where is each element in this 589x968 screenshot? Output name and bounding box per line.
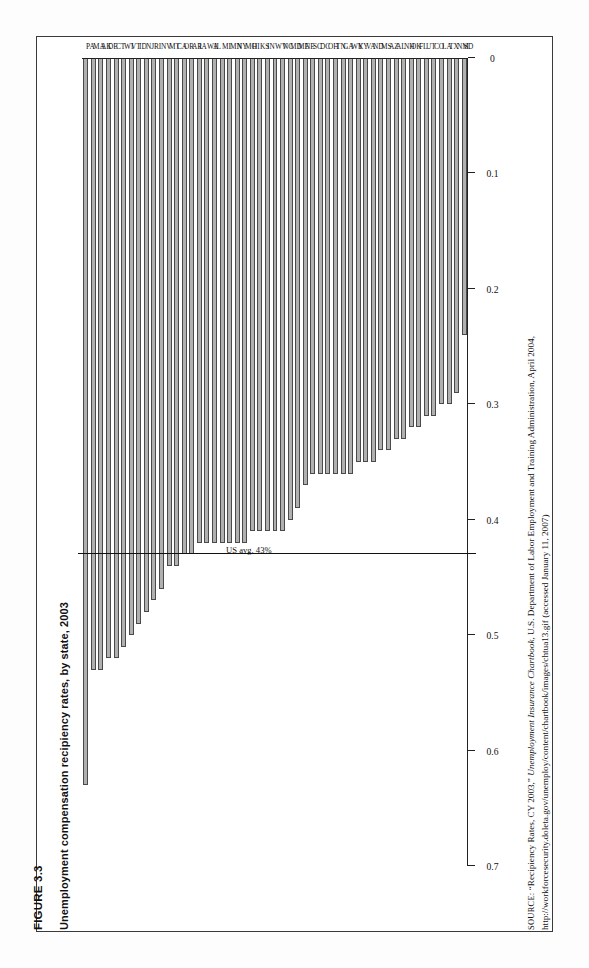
- source-note: SOURCE: “Recipiency Rates, CY 2003,” Une…: [525, 50, 552, 930]
- value-label-0.5: 0.5: [487, 630, 499, 641]
- bar-me: [295, 58, 300, 508]
- bar-row: [310, 58, 315, 866]
- bar-mn: [227, 58, 232, 543]
- bar-az: [386, 58, 391, 450]
- bar-mo: [242, 58, 247, 543]
- bar-chart: 00.10.20.30.40.50.60.7 PAMAAKDECTWIVTIDN…: [76, 50, 506, 918]
- bar-dc: [318, 58, 323, 474]
- bar-row: [114, 58, 119, 866]
- bar-oh: [325, 58, 330, 474]
- bar-ma: [91, 58, 96, 670]
- bar-al: [394, 58, 399, 439]
- bar-row: [447, 58, 452, 866]
- value-tick-0.7: [468, 865, 475, 866]
- bar-ia: [197, 58, 202, 543]
- figure-page: FIGURE 3.3 Unemployment compensation rec…: [0, 0, 589, 968]
- bar-vt: [129, 58, 134, 635]
- bar-row: [265, 58, 270, 866]
- bar-row: [212, 58, 217, 866]
- bar-row: [431, 58, 436, 866]
- bar-row: [204, 58, 209, 866]
- bar-ut: [424, 58, 429, 416]
- bar-row: [91, 58, 96, 866]
- bar-row: [159, 58, 164, 866]
- value-tick-0.4: [468, 519, 475, 520]
- bar-row: [318, 58, 323, 866]
- bar-hi: [250, 58, 255, 531]
- bar-nh: [401, 58, 406, 439]
- bar-row: [303, 58, 308, 866]
- bar-wa: [204, 58, 209, 543]
- bar-row: [151, 58, 156, 866]
- bar-row: [174, 58, 179, 866]
- value-tick-0: [468, 57, 475, 58]
- bar-row: [378, 58, 383, 866]
- figure-number-label: FIGURE 3.3: [32, 865, 44, 930]
- value-tick-0.1: [468, 172, 475, 173]
- bar-row: [136, 58, 141, 866]
- category-axis-line: [82, 58, 468, 59]
- category-label-ia: IA: [199, 42, 207, 51]
- bar-row: [144, 58, 149, 866]
- bar-row: [363, 58, 368, 866]
- bar-ne: [303, 58, 308, 485]
- bar-row: [235, 58, 240, 866]
- bar-row: [280, 58, 285, 866]
- bar-row: [182, 58, 187, 866]
- value-tick-0.3: [468, 403, 475, 404]
- bar-wv: [273, 58, 278, 531]
- bar-row: [250, 58, 255, 866]
- bar-sc: [310, 58, 315, 474]
- bar-pa: [83, 58, 88, 785]
- category-label-in: IN: [267, 42, 275, 51]
- bar-row: [227, 58, 232, 866]
- bar-md: [288, 58, 293, 520]
- bar-row: [424, 58, 429, 866]
- bar-nv: [159, 58, 164, 589]
- bar-nc: [280, 58, 285, 531]
- bar-row: [356, 58, 361, 866]
- bar-mt: [167, 58, 172, 566]
- bar-row: [386, 58, 391, 866]
- bar-ct: [114, 58, 119, 658]
- value-label-0.7: 0.7: [487, 861, 499, 872]
- bar-id: [136, 58, 141, 624]
- bar-ok: [409, 58, 414, 427]
- bar-fl: [416, 58, 421, 427]
- bar-co: [431, 58, 436, 416]
- source-text-part1: “Recipiency Rates, CY 2003,”: [526, 776, 536, 890]
- category-label-sd: SD: [464, 42, 473, 51]
- value-label-0.6: 0.6: [487, 745, 499, 756]
- bar-il: [212, 58, 217, 543]
- bar-ga: [341, 58, 346, 474]
- bar-la: [439, 58, 444, 404]
- bar-row: [189, 58, 194, 866]
- page-title: Unemployment compensation recipiency rat…: [58, 602, 70, 930]
- bar-ks: [257, 58, 262, 531]
- value-tick-0.5: [468, 634, 475, 635]
- value-label-0: 0: [490, 53, 495, 64]
- bar-or: [182, 58, 187, 554]
- bar-ms: [378, 58, 383, 450]
- bar-row: [454, 58, 459, 866]
- bar-tx: [447, 58, 452, 404]
- bar-row: [106, 58, 111, 866]
- source-prefix: SOURCE:: [527, 893, 536, 930]
- bar-row: [439, 58, 444, 866]
- bar-de: [106, 58, 111, 658]
- bar-row: [416, 58, 421, 866]
- bar-row: [167, 58, 172, 866]
- bar-row: [273, 58, 278, 866]
- bar-va: [363, 58, 368, 462]
- bar-row: [288, 58, 293, 866]
- bar-in: [265, 58, 270, 531]
- bar-row: [371, 58, 376, 866]
- bar-row: [348, 58, 353, 866]
- value-label-0.4: 0.4: [487, 514, 499, 525]
- bar-row: [325, 58, 330, 866]
- source-italic-title: Unemployment Insurance Chartbook: [526, 639, 536, 775]
- bar-ar: [189, 58, 194, 554]
- value-label-0.1: 0.1: [487, 168, 499, 179]
- bar-row: [83, 58, 88, 866]
- bar-row: [295, 58, 300, 866]
